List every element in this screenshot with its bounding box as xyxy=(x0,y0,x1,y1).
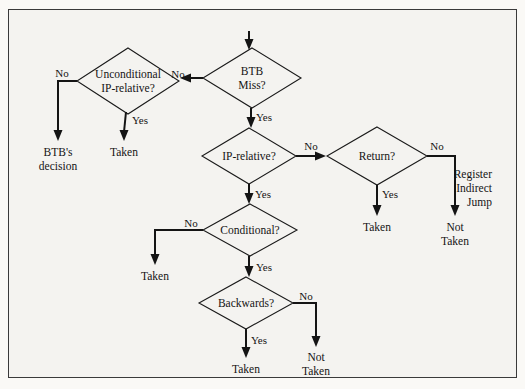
decision-unconditional-ip-relative xyxy=(77,48,179,114)
terminal-not-taken-register-indirect-jump-line1: Not xyxy=(446,221,464,233)
edge-conditional-no xyxy=(151,230,204,265)
terminal-not-taken-backwards-no-line2: Taken xyxy=(302,365,330,377)
label-unconditional-line1: Unconditional xyxy=(95,68,161,80)
terminal-taken-conditional-no: Taken xyxy=(141,270,169,282)
edge-backwards-yes xyxy=(242,329,251,358)
edge-btb-miss-yes xyxy=(247,108,256,128)
edge-unconditional-no xyxy=(54,81,78,141)
edge-label-conditional-no: No xyxy=(184,217,198,229)
annotation-register-indirect-jump-line3: Jump xyxy=(467,196,492,209)
edge-label-backwards-yes: Yes xyxy=(251,334,267,346)
edge-unconditional-yes xyxy=(120,112,129,141)
label-btb-miss-line1: BTB xyxy=(241,65,264,77)
terminal-btb-decision-line2: decision xyxy=(39,160,78,172)
terminal-not-taken-backwards-no-line1: Not xyxy=(307,351,325,363)
terminal-btb-decision-line1: BTB's xyxy=(44,146,73,158)
label-ip-relative: IP-relative? xyxy=(222,150,276,162)
label-unconditional-line2: IP-relative? xyxy=(101,82,155,94)
label-return: Return? xyxy=(359,150,395,162)
label-conditional: Conditional? xyxy=(220,224,279,236)
figure-page: BTB Miss? Unconditional IP-relative? IP-… xyxy=(0,0,525,389)
edge-conditional-yes xyxy=(245,256,254,277)
flowchart-canvas: BTB Miss? Unconditional IP-relative? IP-… xyxy=(0,0,525,389)
label-btb-miss-line2: Miss? xyxy=(238,79,265,91)
edge-label-btb-miss-no: No xyxy=(171,68,185,80)
edge-label-conditional-yes: Yes xyxy=(256,261,272,273)
edge-backwards-no xyxy=(293,303,321,347)
edge-return-no xyxy=(427,156,460,216)
edge-label-unconditional-no: No xyxy=(55,67,69,79)
decision-btb-miss xyxy=(203,48,301,108)
edge-ip-relative-no xyxy=(296,152,326,161)
edge-label-btb-miss-yes: Yes xyxy=(256,111,272,123)
edge-label-return-no: No xyxy=(430,140,444,152)
edge-label-ip-relative-no: No xyxy=(304,140,318,152)
edge-label-ip-relative-yes: Yes xyxy=(255,188,271,200)
label-backwards: Backwards? xyxy=(218,297,274,309)
entry-arrow xyxy=(245,31,254,50)
edge-return-yes xyxy=(373,185,382,216)
edge-ip-relative-yes xyxy=(245,184,254,204)
terminal-taken-backwards-yes: Taken xyxy=(232,363,260,375)
terminal-taken-unconditional: Taken xyxy=(110,146,138,158)
terminal-taken-return: Taken xyxy=(363,221,391,233)
terminal-not-taken-register-indirect-jump-line2: Taken xyxy=(441,235,469,247)
annotation-register-indirect-jump-line2: Indirect xyxy=(456,182,493,194)
edge-label-backwards-no: No xyxy=(299,290,313,302)
annotation-register-indirect-jump-line1: Register xyxy=(454,168,492,181)
edge-label-unconditional-yes: Yes xyxy=(132,114,148,126)
edge-label-return-yes: Yes xyxy=(382,188,398,200)
